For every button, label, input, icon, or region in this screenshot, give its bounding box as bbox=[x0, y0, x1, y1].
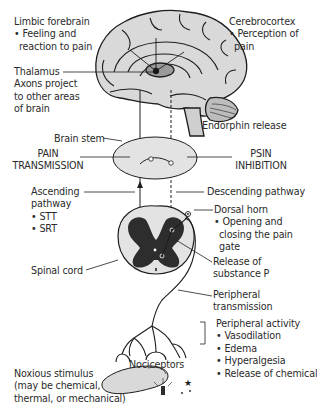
noxious-line-2: (may be chemical, bbox=[14, 380, 126, 392]
dorsal-horn-bullet-2: closing the pain bbox=[214, 229, 293, 241]
thalamus-title: Thalamus bbox=[14, 66, 80, 78]
psin-inhibition-line-1: PSIN bbox=[226, 148, 296, 160]
noxious-line-1: Noxious stimulus bbox=[14, 368, 126, 380]
limbic-bullet-text: Feeling and bbox=[22, 28, 76, 39]
cerebrocortex-bullet-2: pain bbox=[229, 41, 299, 53]
label-endorphin-release: Endorphin release bbox=[202, 120, 286, 132]
bullet-icon: • bbox=[229, 28, 235, 39]
peripheral-bullet-edema: • Edema bbox=[216, 343, 317, 355]
label-pain-transmission: PAIN TRANSMISSION bbox=[12, 148, 84, 173]
peripheral-bullet-vasodilation: • Vasodilation bbox=[216, 330, 317, 342]
ascending-bullet-stt: • STT bbox=[31, 211, 79, 223]
label-cerebrocortex: Cerebrocortex • Perception of pain bbox=[229, 16, 299, 53]
bullet-icon: • bbox=[216, 343, 222, 354]
peripheral-transmission-line-2: transmission bbox=[213, 301, 273, 313]
peripheral-activity-title: Peripheral activity bbox=[216, 318, 317, 330]
thalamus-line-2: to other areas bbox=[14, 91, 80, 103]
limbic-title: Limbic forebrain bbox=[14, 16, 92, 28]
label-release-substance-p: Release of substance P bbox=[213, 256, 269, 281]
ascending-line-2: pathway bbox=[31, 198, 79, 210]
peripheral-bullet-text: Release of chemicals bbox=[224, 368, 317, 379]
label-descending-pathway: Descending pathway bbox=[207, 186, 305, 198]
label-thalamus: Thalamus Axons project to other areas of… bbox=[14, 66, 80, 116]
ascending-bullet-text: SRT bbox=[39, 223, 56, 234]
bullet-icon: • bbox=[31, 211, 37, 222]
svg-text:★: ★ bbox=[184, 378, 192, 388]
cerebrocortex-bullet-text: Perception of bbox=[237, 28, 298, 39]
peripheral-bullet-hyperalgesia: • Hyperalgesia bbox=[216, 355, 317, 367]
ascending-bullet-srt: • SRT bbox=[31, 223, 79, 235]
peripheral-bullet-text: Vasodilation bbox=[224, 330, 280, 341]
bullet-icon: • bbox=[216, 368, 222, 379]
label-psin-inhibition: PSIN INHIBITION bbox=[226, 148, 296, 173]
label-peripheral-transmission: Peripheral transmission bbox=[213, 289, 273, 314]
cerebrocortex-bullet-1: • Perception of bbox=[229, 28, 299, 40]
dorsal-horn-bullet-3: gate bbox=[214, 241, 293, 253]
bullet-icon: • bbox=[31, 223, 37, 234]
noxious-line-3: thermal, or mechanical) bbox=[14, 393, 126, 405]
dorsal-horn-title: Dorsal horn bbox=[214, 204, 293, 216]
bullet-icon: • bbox=[216, 330, 222, 341]
peripheral-bullet-text: Edema bbox=[224, 343, 257, 354]
label-noxious-stimulus: Noxious stimulus (may be chemical, therm… bbox=[14, 368, 126, 405]
substance-p-line-2: substance P bbox=[213, 268, 269, 280]
peripheral-bullet-text: Hyperalgesia bbox=[224, 355, 285, 366]
label-dorsal-horn: Dorsal horn • Opening and closing the pa… bbox=[214, 204, 293, 254]
peripheral-transmission-line-1: Peripheral bbox=[213, 289, 273, 301]
peripheral-bullet-release-chemicals: • Release of chemicals bbox=[216, 368, 317, 380]
spinal-cord-cross-section-icon bbox=[118, 206, 194, 274]
psin-inhibition-line-2: INHIBITION bbox=[226, 160, 296, 172]
label-ascending-pathway: Ascending pathway • STT • SRT bbox=[31, 186, 79, 236]
thalamus-line-1: Axons project bbox=[14, 78, 80, 90]
ascending-bullet-text: STT bbox=[39, 211, 56, 222]
ascending-line-1: Ascending bbox=[31, 186, 79, 198]
label-peripheral-activity: Peripheral activity • Vasodilation • Ede… bbox=[216, 318, 317, 380]
pain-transmission-line-2: TRANSMISSION bbox=[12, 160, 84, 172]
thalamus-line-3: of brain bbox=[14, 103, 80, 115]
limbic-bullet-1: • Feeling and bbox=[14, 28, 92, 40]
label-nociceptors: Nociceptors bbox=[129, 359, 184, 371]
label-limbic-forebrain: Limbic forebrain • Feeling and reaction … bbox=[14, 16, 92, 53]
bullet-icon: • bbox=[14, 28, 20, 39]
bullet-icon: • bbox=[216, 355, 222, 366]
nociceptor-branches-icon bbox=[116, 326, 186, 362]
limbic-bullet-2: reaction to pain bbox=[14, 41, 92, 53]
dorsal-horn-bullet-text: Opening and bbox=[222, 216, 282, 227]
dorsal-horn-bullet-1: • Opening and bbox=[214, 216, 293, 228]
bullet-icon: • bbox=[214, 216, 220, 227]
label-spinal-cord: Spinal cord bbox=[31, 265, 83, 277]
pain-transmission-line-1: PAIN bbox=[12, 148, 84, 160]
label-brain-stem: Brain stem bbox=[54, 133, 105, 145]
cerebrocortex-title: Cerebrocortex bbox=[229, 16, 299, 28]
substance-p-line-1: Release of bbox=[213, 256, 269, 268]
